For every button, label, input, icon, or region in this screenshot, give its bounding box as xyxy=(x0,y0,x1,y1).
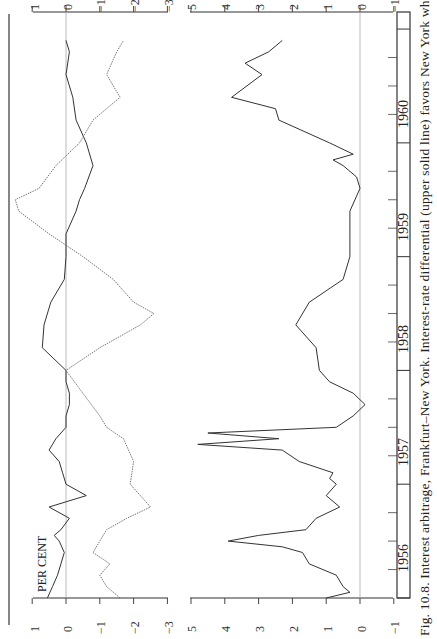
series-line xyxy=(198,40,365,598)
lower-tick-label-top: −1 xyxy=(388,0,403,12)
tick-marks xyxy=(32,6,410,604)
lower-tick-label: 5 xyxy=(185,626,200,632)
lower-tick-label-top: 0 xyxy=(355,4,370,10)
upper-tick-label: −1 xyxy=(94,621,109,634)
year-label: 1958 xyxy=(396,325,412,353)
figure-caption: Fig. 10.8. Interest arbitrage, Frankfurt… xyxy=(417,0,433,636)
lower-tick-label: −1 xyxy=(388,621,403,634)
upper-tick-label-top: 0 xyxy=(61,4,76,10)
lower-tick-label-top: 2 xyxy=(287,4,302,10)
upper-tick-label-top: 1 xyxy=(28,4,43,10)
lower-tick-label-top: 1 xyxy=(321,4,336,10)
chart-canvas xyxy=(0,0,437,639)
lower-tick-label: 1 xyxy=(321,626,336,632)
lower-tick-label: 2 xyxy=(287,626,302,632)
year-label: 1960 xyxy=(396,100,412,128)
series-line xyxy=(42,40,93,598)
lower-tick-label: 3 xyxy=(253,626,268,632)
data-lines xyxy=(15,40,365,598)
lower-tick-label-top: 4 xyxy=(219,4,234,10)
year-label: 1959 xyxy=(396,213,412,241)
lower-tick-label-top: 3 xyxy=(253,4,268,10)
year-label: 1956 xyxy=(396,544,412,572)
upper-tick-label: −2 xyxy=(128,621,143,634)
upper-tick-label-top: −2 xyxy=(128,0,143,12)
upper-tick-label: 1 xyxy=(28,626,43,632)
figure: 1 0 −1 −2 −3 5 4 3 2 1 0 −1 1 0 −1 −2 −3… xyxy=(0,0,437,639)
upper-tick-label-top: −3 xyxy=(162,0,177,12)
upper-tick-label: 0 xyxy=(61,626,76,632)
series-line xyxy=(15,40,154,598)
lower-tick-label-top: 5 xyxy=(185,4,200,10)
upper-tick-label-top: −1 xyxy=(94,0,109,12)
lower-tick-label: 4 xyxy=(219,626,234,632)
lower-tick-label: 0 xyxy=(355,626,370,632)
y-axis-label: PER CENT xyxy=(35,536,50,592)
year-label: 1957 xyxy=(396,438,412,466)
upper-tick-label: −3 xyxy=(162,621,177,634)
